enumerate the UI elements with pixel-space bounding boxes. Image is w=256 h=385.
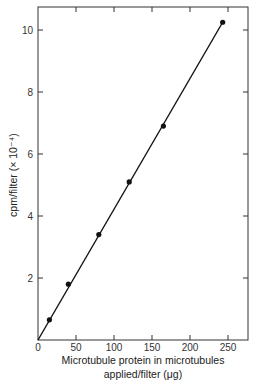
x-tick-label: 250 [220,342,237,353]
plot-frame [38,7,248,340]
data-point [96,232,101,237]
y-tick-label: 2 [27,273,33,284]
chart: 050100150200250246810Microtubule protein… [0,0,256,385]
data-point [47,317,52,322]
x-tick-label: 100 [106,342,123,353]
data-point [127,179,132,184]
y-tick-label: 10 [22,25,34,36]
y-tick-label: 6 [27,149,33,160]
data-point [161,124,166,129]
y-tick-label: 8 [27,87,33,98]
y-axis-label: cpm/filter (× 10⁻⁴) [7,133,19,217]
y-tick-label: 4 [27,211,33,222]
x-tick-label: 0 [35,342,41,353]
x-axis-label-2: applied/filter (μg) [104,368,182,380]
data-point [220,20,225,25]
x-axis-label: Microtubule protein in microtubules [62,354,225,366]
x-tick-label: 50 [70,342,82,353]
x-tick-label: 150 [144,342,161,353]
data-point [66,282,71,287]
x-tick-label: 200 [182,342,199,353]
